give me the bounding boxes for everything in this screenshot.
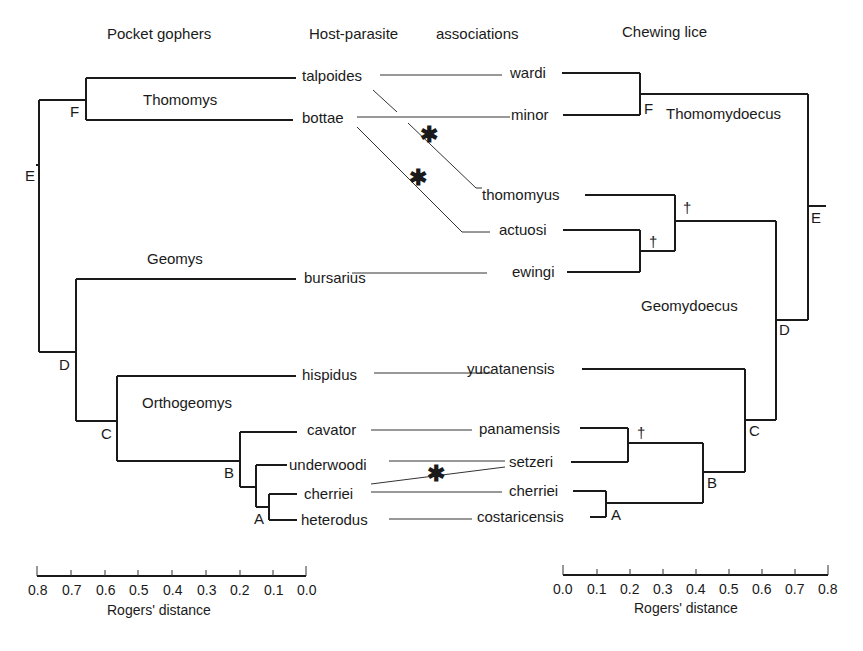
host-node-b: B — [224, 465, 234, 480]
parasite-node-b: B — [707, 475, 717, 490]
host-taxon-hispidus: hispidus — [302, 367, 357, 382]
host-taxon-bursarius: bursarius — [304, 270, 366, 285]
parasite-taxon-actuosi: actuosi — [499, 222, 547, 237]
parasite-taxon-yucatanensis: yucatanensis — [467, 361, 555, 376]
parasite-taxon-cherriei: cherriei — [509, 483, 558, 498]
host-switch-asterisk-icon: ✱ — [409, 167, 427, 189]
host-node-a: A — [254, 511, 264, 526]
host-taxon-cavator: cavator — [307, 422, 356, 437]
header-associations: associations — [436, 26, 519, 41]
parasite-node-e: E — [811, 210, 821, 225]
scale-bars — [37, 565, 828, 576]
parasite-taxon-ewingi: ewingi — [512, 264, 555, 279]
genus-thomomydoecus: Thomomydoecus — [666, 106, 781, 121]
header-host-parasite: Host-parasite — [309, 26, 398, 41]
parasite-taxon-minor: minor — [511, 107, 549, 122]
left-tick: 0.2 — [230, 583, 249, 597]
right-tick: 0.0 — [553, 582, 572, 596]
extinction-dagger-icon: † — [637, 425, 645, 440]
host-taxon-bottae: bottae — [302, 110, 344, 125]
right-scale-title: Rogers' distance — [634, 601, 738, 615]
header-pocket-gophers: Pocket gophers — [107, 26, 211, 41]
host-taxon-talpoides: talpoides — [302, 68, 362, 83]
genus-geomydoecus: Geomydoecus — [641, 298, 738, 313]
left-tick: 0.5 — [129, 583, 148, 597]
left-tick: 0.6 — [96, 583, 115, 597]
parasite-node-f: F — [644, 101, 653, 116]
right-tick: 0.2 — [620, 582, 639, 596]
host-node-c: C — [101, 426, 112, 441]
left-tick: 0.7 — [62, 583, 81, 597]
parasite-node-d: D — [779, 322, 790, 337]
right-tick: 0.1 — [587, 582, 606, 596]
genus-geomys: Geomys — [147, 251, 203, 266]
genus-thomomys: Thomomys — [143, 92, 217, 107]
host-node-f: F — [70, 104, 79, 119]
extinction-dagger-icon: † — [649, 234, 657, 249]
parasite-taxon-setzeri: setzeri — [509, 454, 553, 469]
host-node-d: D — [59, 357, 70, 372]
parasite-node-a: A — [611, 507, 621, 522]
tanglegram-lines — [0, 0, 863, 651]
right-tick: 0.8 — [818, 582, 837, 596]
host-tree-branches — [36, 78, 297, 520]
header-chewing-lice: Chewing lice — [622, 24, 707, 39]
right-tick: 0.4 — [686, 582, 705, 596]
parasite-taxon-costaricensis: costaricensis — [477, 509, 564, 524]
left-scale-title: Rogers' distance — [107, 603, 211, 617]
host-switch-asterisk-icon: ✱ — [427, 463, 445, 485]
left-tick: 0.8 — [28, 583, 47, 597]
right-tick: 0.3 — [653, 582, 672, 596]
host-taxon-heterodus: heterodus — [301, 512, 368, 527]
host-switch-asterisk-icon: ✱ — [420, 124, 438, 146]
left-tick: 0.3 — [197, 583, 216, 597]
parasite-taxon-panamensis: panamensis — [479, 421, 560, 436]
parasite-taxon-wardi: wardi — [510, 65, 546, 80]
left-tick: 0.1 — [264, 583, 283, 597]
parasite-tree-branches — [562, 73, 826, 517]
host-taxon-cherriei: cherriei — [304, 486, 353, 501]
host-node-e: E — [25, 168, 35, 183]
parasite-taxon-thomomyus: thomomyus — [482, 187, 560, 202]
host-taxon-underwoodi: underwoodi — [289, 457, 367, 472]
genus-orthogeomys: Orthogeomys — [142, 395, 232, 410]
right-tick: 0.6 — [752, 582, 771, 596]
left-tick: 0.0 — [297, 583, 316, 597]
left-tick: 0.4 — [163, 583, 182, 597]
right-tick: 0.7 — [785, 582, 804, 596]
right-tick: 0.5 — [719, 582, 738, 596]
extinction-dagger-icon: † — [683, 200, 691, 215]
parasite-node-c: C — [749, 423, 760, 438]
